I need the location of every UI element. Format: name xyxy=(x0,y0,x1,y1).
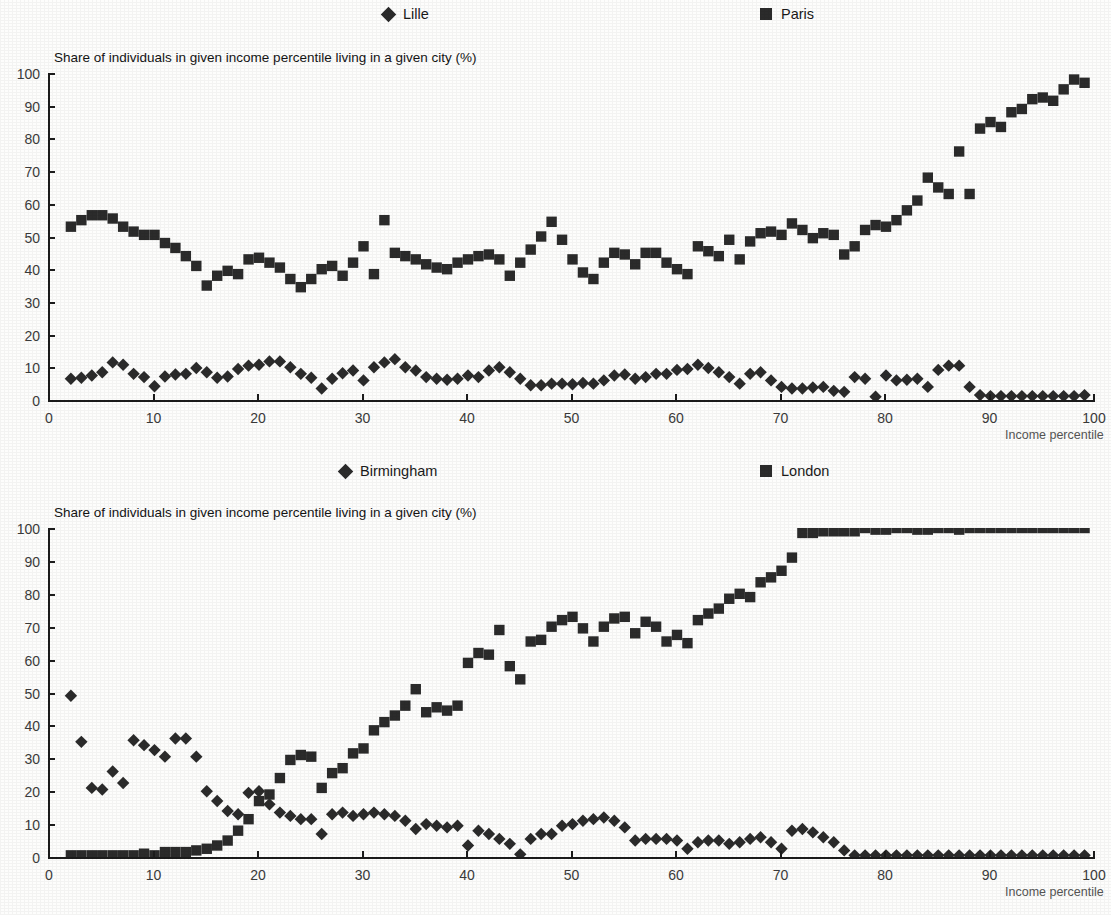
data-point xyxy=(953,359,965,371)
data-point xyxy=(526,244,536,254)
data-point xyxy=(127,368,139,380)
data-point xyxy=(473,648,483,658)
x-axis-tick-mark xyxy=(1093,851,1095,858)
data-point xyxy=(118,850,128,857)
y-axis-tick-label: 70 xyxy=(0,164,40,180)
data-point xyxy=(336,806,348,818)
x-axis-tick-label: 40 xyxy=(459,410,475,426)
data-point xyxy=(828,836,840,848)
legend-item-lille[interactable]: Lille xyxy=(383,6,429,22)
data-point xyxy=(399,815,411,827)
data-point xyxy=(1037,390,1049,400)
data-point xyxy=(620,249,630,259)
legend-uk: Birmingham London xyxy=(0,463,1111,489)
data-point xyxy=(724,235,734,245)
data-point xyxy=(661,257,671,267)
data-point xyxy=(327,261,337,271)
x-axis-tick-mark xyxy=(257,851,259,858)
data-point xyxy=(1027,528,1037,533)
data-point xyxy=(222,266,232,276)
data-point xyxy=(505,271,515,281)
y-axis-tick-mark xyxy=(48,791,55,793)
x-axis-tick-label: 40 xyxy=(459,867,475,883)
y-axis-tick-label: 90 xyxy=(0,554,40,570)
data-point xyxy=(430,820,442,832)
data-point xyxy=(159,750,171,762)
data-point xyxy=(242,359,254,371)
y-axis-tick-label: 90 xyxy=(0,99,40,115)
data-point xyxy=(221,805,233,817)
data-point xyxy=(108,850,118,857)
data-point xyxy=(599,257,609,267)
x-axis-tick-label: 90 xyxy=(982,410,998,426)
data-point xyxy=(253,785,265,797)
x-axis-tick-mark xyxy=(362,394,364,401)
data-point xyxy=(358,241,368,251)
square-marker-icon xyxy=(760,8,772,20)
legend-label-london: London xyxy=(781,463,829,479)
data-point xyxy=(327,768,337,778)
data-point xyxy=(75,736,87,748)
data-point xyxy=(254,253,264,263)
y-axis-tick-label: 20 xyxy=(0,328,40,344)
data-point xyxy=(472,371,484,383)
legend-item-paris[interactable]: Paris xyxy=(760,6,814,22)
data-point xyxy=(107,765,119,777)
x-axis-tick-mark xyxy=(780,851,782,858)
data-point xyxy=(514,373,526,385)
y-axis-tick-label: 60 xyxy=(0,197,40,213)
y-axis-tick-label: 20 xyxy=(0,784,40,800)
data-point xyxy=(797,528,807,538)
data-point xyxy=(348,748,358,758)
data-point xyxy=(336,367,348,379)
data-point xyxy=(546,217,556,227)
data-point xyxy=(880,849,892,857)
x-axis-tick-mark xyxy=(257,394,259,401)
data-point xyxy=(462,369,474,381)
data-point xyxy=(608,369,620,381)
data-point xyxy=(933,182,943,192)
data-point xyxy=(1016,849,1028,857)
legend-item-birmingham[interactable]: Birmingham xyxy=(340,463,437,479)
data-point xyxy=(159,370,171,382)
data-point xyxy=(263,798,275,810)
data-point xyxy=(714,603,724,613)
x-axis-tick-label: 90 xyxy=(982,867,998,883)
data-point xyxy=(1069,74,1079,84)
x-axis-tick-mark xyxy=(571,394,573,401)
x-axis-tick-mark xyxy=(153,394,155,401)
data-point xyxy=(305,813,317,825)
data-point xyxy=(274,806,286,818)
data-point xyxy=(169,368,181,380)
y-axis-tick-mark xyxy=(48,138,55,140)
data-point xyxy=(1006,107,1016,117)
y-axis-tick-label: 100 xyxy=(0,521,40,537)
data-point xyxy=(776,230,786,240)
data-point xyxy=(97,850,107,857)
x-axis-tick-mark xyxy=(884,851,886,858)
data-point xyxy=(264,257,274,267)
legend-item-london[interactable]: London xyxy=(760,463,829,479)
data-point xyxy=(378,356,390,368)
data-point xyxy=(963,381,975,393)
data-point xyxy=(609,248,619,258)
data-point xyxy=(536,635,546,645)
y-axis-tick-label: 50 xyxy=(0,230,40,246)
data-point xyxy=(201,366,213,378)
data-point xyxy=(1016,390,1028,400)
data-point xyxy=(995,390,1007,400)
y-axis-tick-mark xyxy=(48,528,55,530)
data-point xyxy=(640,248,650,258)
data-point xyxy=(599,622,609,632)
data-point xyxy=(138,371,150,383)
data-point xyxy=(148,380,160,392)
x-axis-tick-label: 70 xyxy=(773,410,789,426)
x-axis-tick-label: 70 xyxy=(773,867,789,883)
data-point xyxy=(911,373,923,385)
data-point xyxy=(504,838,516,850)
data-point xyxy=(797,225,807,235)
data-point xyxy=(347,364,359,376)
data-point xyxy=(1048,96,1058,106)
data-point xyxy=(566,818,578,830)
data-point xyxy=(954,528,964,535)
